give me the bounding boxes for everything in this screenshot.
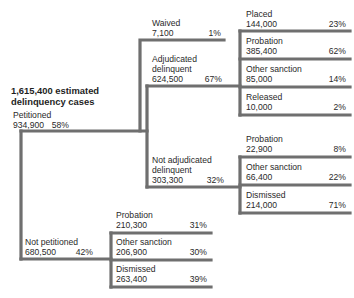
node-adj-released: Released 10,0002% (246, 92, 346, 112)
node-np-other-sanction: Other sanction 206,90030% (116, 237, 207, 257)
node-adj-other-sanction: Other sanction 85,00014% (246, 64, 346, 84)
node-adjudicated: Adjudicated delinquent 624,50067% (152, 54, 222, 84)
node-petitioned: Petitioned 934,90058% (13, 110, 69, 130)
node-nadj-probation: Probation 22,9008% (246, 134, 346, 154)
diagram-title: 1,615,400 estimated delinquency cases (11, 85, 99, 107)
node-adj-probation: Probation 385,40062% (246, 36, 346, 56)
node-not-adjudicated: Not adjudicated delinquent 303,30032% (152, 155, 224, 185)
node-not-petitioned: Not petitioned 680,50042% (25, 237, 93, 257)
node-nadj-other-sanction: Other sanction 66,40022% (246, 162, 346, 182)
node-np-probation: Probation 210,30031% (116, 210, 207, 230)
node-nadj-dismissed: Dismissed 214,00071% (246, 190, 346, 210)
node-waived: Waived 7,1001% (152, 18, 221, 38)
node-adj-placed: Placed 144,00023% (246, 9, 346, 29)
node-np-dismissed: Dismissed 263,40039% (116, 264, 207, 284)
